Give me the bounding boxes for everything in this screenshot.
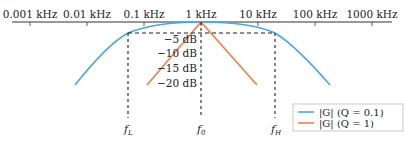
curve-q-0-1 xyxy=(75,22,330,85)
frequency-marker-label: fL xyxy=(123,123,133,137)
db-label: −10 dB xyxy=(157,47,197,59)
db-label: −20 dB xyxy=(157,77,197,89)
db-label: −5 dB xyxy=(164,33,198,45)
legend-label-q-1: |G| (Q = 1) xyxy=(319,118,374,130)
axis-tick-label: 10 kHz xyxy=(239,8,277,20)
axis-tick-label: 1 kHz xyxy=(185,8,217,20)
db-label: −15 dB xyxy=(157,62,197,74)
frequency-marker-labels: fLf0fH xyxy=(123,123,282,137)
frequency-marker-label: fH xyxy=(270,123,282,137)
axis-tick-label: 0.1 kHz xyxy=(123,8,165,20)
db-labels: −5 dB−10 dB−15 dB−20 dB xyxy=(157,33,197,89)
frequency-marker-label: f0 xyxy=(196,123,206,137)
axis-tick-label: 0.001 kHz xyxy=(3,8,58,20)
axis-tick-label: 1000 kHz xyxy=(346,8,398,20)
legend: |G| (Q = 0.1) |G| (Q = 1) xyxy=(293,104,403,131)
bode-chart: 0.001 kHz0.01 kHz0.1 kHz1 kHz10 kHz100 k… xyxy=(0,0,406,147)
axis-tick-label: 0.01 kHz xyxy=(63,8,111,20)
axis-tick-label: 100 kHz xyxy=(293,8,338,20)
